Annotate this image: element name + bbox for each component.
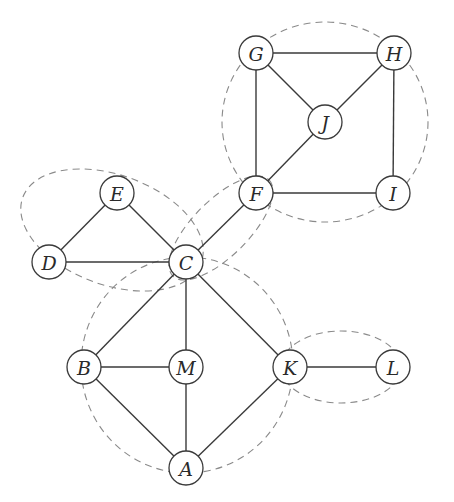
node-label: M bbox=[175, 357, 196, 379]
graph-diagram: ABCDEFGHIJKLM bbox=[0, 0, 454, 502]
node-F: F bbox=[239, 176, 273, 210]
node-I: I bbox=[376, 176, 410, 210]
node-label: D bbox=[40, 252, 56, 274]
nodes: ABCDEFGHIJKLM bbox=[32, 36, 411, 485]
node-E: E bbox=[100, 176, 134, 210]
node-D: D bbox=[32, 245, 66, 279]
block-outlines bbox=[4, 22, 428, 473]
node-label: L bbox=[386, 357, 400, 379]
edge-K-A bbox=[186, 367, 290, 468]
node-A: A bbox=[169, 451, 203, 485]
node-label: B bbox=[76, 357, 91, 379]
node-label: A bbox=[177, 458, 193, 480]
node-label: C bbox=[179, 252, 194, 274]
node-label: H bbox=[385, 43, 403, 65]
node-G: G bbox=[239, 36, 273, 70]
node-H: H bbox=[377, 36, 411, 70]
node-label: E bbox=[109, 183, 124, 205]
edge-B-A bbox=[84, 367, 186, 468]
edge-C-K bbox=[186, 262, 290, 367]
edges bbox=[49, 53, 394, 468]
node-L: L bbox=[376, 350, 410, 384]
node-label: I bbox=[388, 183, 397, 205]
node-B: B bbox=[67, 350, 101, 384]
node-J: J bbox=[308, 105, 342, 139]
node-K: K bbox=[273, 350, 307, 384]
node-label: G bbox=[248, 43, 263, 65]
node-label: K bbox=[282, 357, 299, 379]
edge-C-B bbox=[84, 262, 186, 367]
node-C: C bbox=[169, 245, 203, 279]
node-M: M bbox=[169, 350, 203, 384]
node-label: F bbox=[248, 183, 263, 205]
edge-H-I bbox=[393, 53, 394, 193]
